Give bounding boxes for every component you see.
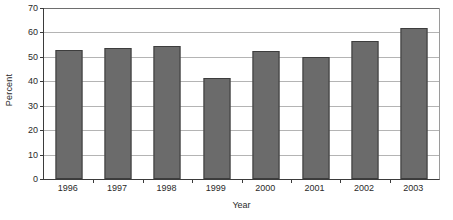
x-axis-tick-label: 1997 [107,183,127,194]
x-axis-tick-label: 2002 [354,183,374,194]
y-axis-tick-mark [40,179,44,180]
y-axis-tick-label: 50 [28,52,38,61]
bar-chart-figure: Percent 010203040506070 1996199719981999… [0,0,453,220]
x-axis-tick-label: 1996 [58,183,78,194]
y-axis-tick-label: 30 [28,101,38,110]
bar [401,28,428,179]
bar [203,78,230,179]
x-axis-tick-label: 1998 [156,183,176,194]
bar-slot [143,8,192,179]
bar-slot [192,8,241,179]
y-axis-tick-label: 70 [28,4,38,13]
x-axis-tick-label: 2001 [305,183,325,194]
y-axis-tick-label: 0 [33,175,38,184]
y-axis-tick-label: 20 [28,126,38,135]
x-axis-tick-labels: 19961997199819992000200120022003 [43,183,440,197]
bar-slot [44,8,93,179]
bars-layer [44,8,439,179]
y-axis-tick-label: 60 [28,28,38,37]
x-axis-tick-label: 2000 [255,183,275,194]
bar [55,50,82,179]
y-axis-title: Percent [0,0,18,180]
bar-slot [242,8,291,179]
y-axis-tick-label: 10 [28,150,38,159]
bar [351,41,378,180]
y-axis-tick-label: 40 [28,77,38,86]
bar [253,51,280,179]
bar [105,48,132,179]
x-axis-tick-label: 1999 [206,183,226,194]
y-axis-tick-labels: 010203040506070 [18,8,40,180]
bar [302,57,329,179]
x-axis-title: Year [43,200,440,210]
bar-slot [291,8,340,179]
x-axis-tick-label: 2003 [403,183,423,194]
y-axis-title-label: Percent [4,74,14,106]
bar-slot [390,8,439,179]
bar-slot [340,8,389,179]
bar-slot [93,8,142,179]
bar [154,46,181,179]
plot-area [43,8,440,180]
